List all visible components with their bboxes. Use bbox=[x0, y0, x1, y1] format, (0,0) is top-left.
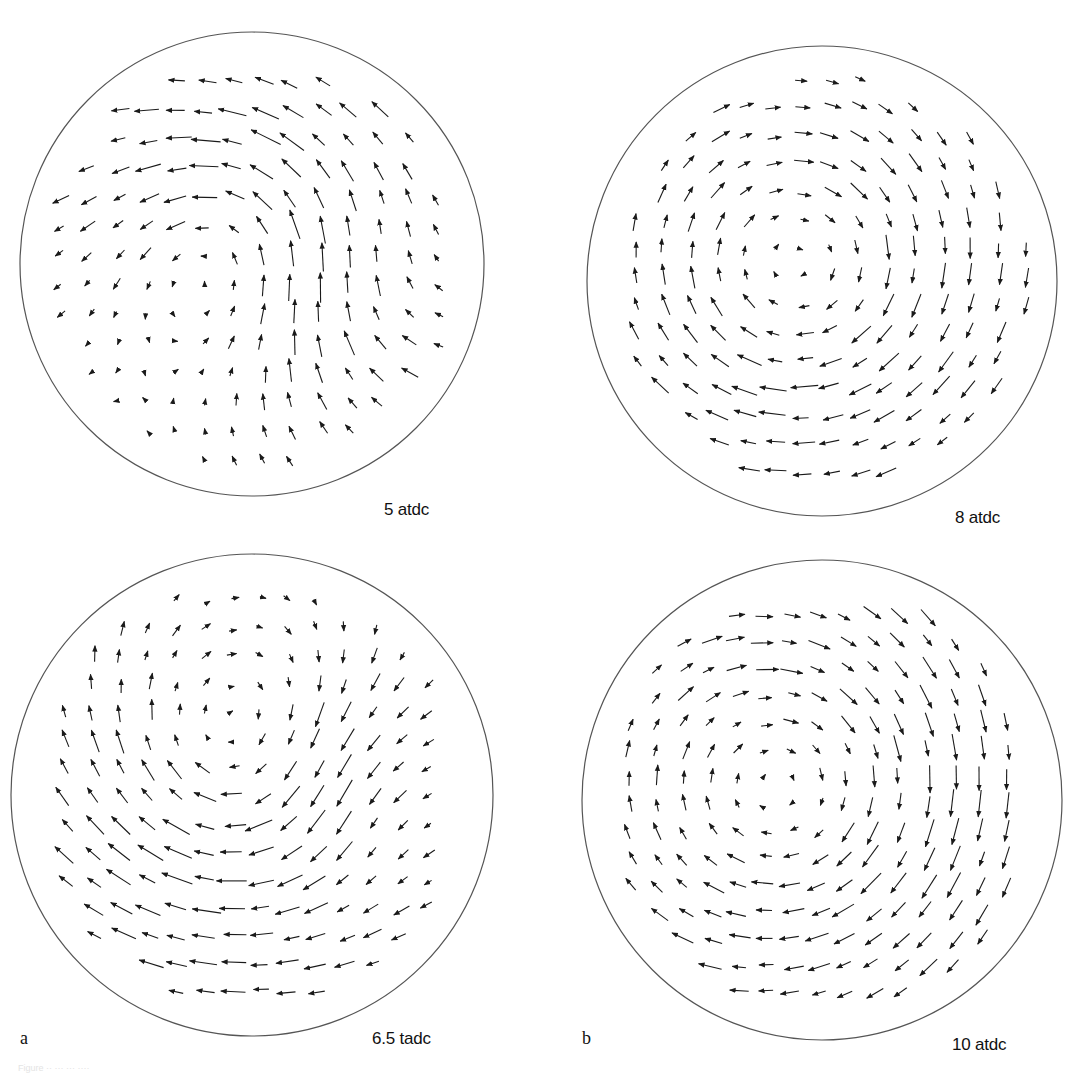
velocity-arrow-icon bbox=[796, 333, 814, 335]
velocity-arrow-icon bbox=[142, 760, 155, 781]
velocity-arrow-icon bbox=[785, 614, 801, 617]
velocity-arrow-icon bbox=[740, 103, 754, 107]
velocity-arrow-icon bbox=[249, 880, 274, 886]
velocity-arrow-icon bbox=[969, 263, 972, 285]
velocity-arrow-icon bbox=[230, 368, 233, 376]
velocity-arrow-icon bbox=[711, 297, 722, 316]
velocity-arrow-icon bbox=[664, 215, 667, 228]
velocity-arrow-icon bbox=[190, 961, 218, 965]
velocity-arrow-icon bbox=[167, 761, 181, 779]
velocity-arrow-icon bbox=[276, 960, 299, 963]
velocity-arrow-icon bbox=[1000, 263, 1003, 285]
velocity-arrow-icon bbox=[250, 165, 273, 179]
velocity-arrow-icon bbox=[751, 643, 773, 644]
velocity-arrow-icon bbox=[933, 376, 950, 395]
velocity-arrow-icon bbox=[951, 846, 961, 871]
velocity-arrow-icon bbox=[658, 184, 666, 202]
velocity-arrow-icon bbox=[347, 216, 350, 236]
velocity-arrow-icon bbox=[866, 688, 880, 704]
velocity-arrow-icon bbox=[684, 324, 698, 342]
velocity-arrow-icon bbox=[922, 875, 937, 898]
velocity-arrow-icon bbox=[139, 817, 155, 830]
velocity-arrow-icon bbox=[659, 356, 668, 366]
velocity-arrow-icon bbox=[282, 159, 301, 177]
velocity-arrow-icon bbox=[433, 224, 438, 234]
velocity-arrow-icon bbox=[1003, 847, 1010, 869]
velocity-arrow-icon bbox=[827, 300, 838, 309]
velocity-arrow-icon bbox=[939, 352, 954, 372]
velocity-arrow-icon bbox=[711, 768, 713, 782]
velocity-arrow-icon bbox=[112, 928, 136, 939]
velocity-arrow-icon bbox=[375, 335, 386, 349]
velocity-arrow-icon bbox=[245, 820, 272, 831]
velocity-arrow-icon bbox=[683, 771, 684, 784]
velocity-arrow-icon bbox=[688, 213, 694, 232]
velocity-arrow-icon bbox=[892, 902, 906, 917]
velocity-arrow-icon bbox=[711, 183, 725, 198]
velocity-arrow-icon bbox=[112, 817, 131, 835]
velocity-arrow-icon bbox=[837, 852, 852, 866]
velocity-arrow-icon bbox=[873, 766, 875, 788]
velocity-arrow-icon bbox=[813, 855, 829, 865]
velocity-arrow-icon bbox=[250, 933, 273, 935]
velocity-arrow-icon bbox=[634, 268, 636, 283]
velocity-arrow-icon bbox=[971, 185, 975, 198]
velocity-arrow-icon bbox=[940, 414, 950, 423]
velocity-arrow-icon bbox=[879, 104, 893, 114]
velocity-arrow-icon bbox=[819, 440, 839, 444]
velocity-arrow-icon bbox=[203, 678, 209, 686]
velocity-arrow-icon bbox=[977, 877, 986, 895]
velocity-arrow-icon bbox=[706, 410, 728, 420]
velocity-arrow-icon bbox=[629, 852, 636, 864]
velocity-arrow-icon bbox=[420, 902, 431, 908]
velocity-arrow-icon bbox=[906, 383, 922, 397]
velocity-arrow-icon bbox=[290, 654, 294, 662]
velocity-arrow-icon bbox=[760, 750, 768, 753]
velocity-arrow-icon bbox=[683, 156, 694, 168]
velocity-arrow-icon bbox=[964, 413, 973, 423]
velocity-arrow-icon bbox=[626, 878, 636, 890]
velocity-arrow-icon bbox=[348, 398, 357, 408]
velocity-arrow-icon bbox=[335, 961, 355, 967]
velocity-arrow-icon bbox=[318, 335, 322, 357]
velocity-arrow-icon bbox=[259, 734, 265, 745]
velocity-arrow-icon bbox=[745, 270, 748, 280]
velocity-arrow-icon bbox=[342, 680, 347, 694]
flow-panel-8-atdc bbox=[587, 46, 1057, 516]
velocity-arrow-icon bbox=[853, 358, 867, 367]
velocity-arrow-icon bbox=[263, 394, 265, 410]
velocity-arrow-icon bbox=[909, 324, 917, 337]
velocity-arrow-icon bbox=[732, 966, 746, 967]
velocity-arrow-icon bbox=[204, 705, 206, 714]
velocity-arrow-icon bbox=[838, 614, 850, 620]
velocity-arrow-icon bbox=[893, 934, 910, 949]
velocity-arrow-icon bbox=[927, 796, 930, 817]
cylinder-bore-outline bbox=[11, 554, 493, 1036]
velocity-arrow-icon bbox=[812, 991, 825, 995]
velocity-arrow-icon bbox=[226, 79, 243, 83]
velocity-arrow-icon bbox=[228, 336, 234, 349]
velocity-arrow-icon bbox=[54, 284, 61, 289]
velocity-arrow-icon bbox=[763, 774, 766, 778]
velocity-arrow-icon bbox=[139, 960, 164, 968]
velocity-arrow-icon bbox=[192, 935, 215, 939]
velocity-arrow-icon bbox=[221, 793, 242, 794]
velocity-arrow-icon bbox=[794, 160, 814, 162]
velocity-arrow-icon bbox=[945, 237, 946, 254]
velocity-arrow-icon bbox=[275, 907, 299, 914]
velocity-arrow-icon bbox=[194, 793, 216, 802]
velocity-arrow-icon bbox=[677, 854, 687, 865]
velocity-arrow-icon bbox=[118, 650, 120, 663]
velocity-arrow-icon bbox=[879, 131, 893, 143]
velocity-arrow-icon bbox=[909, 356, 922, 370]
velocity-arrow-icon bbox=[251, 906, 269, 909]
velocity-arrow-icon bbox=[145, 651, 148, 660]
velocity-arrow-icon bbox=[308, 810, 326, 833]
velocity-arrow-icon bbox=[726, 637, 744, 641]
velocity-arrow-icon bbox=[423, 850, 434, 858]
velocity-arrow-icon bbox=[369, 707, 377, 718]
velocity-arrow-icon bbox=[716, 213, 725, 230]
velocity-arrow-icon bbox=[89, 371, 93, 374]
velocity-arrow-icon bbox=[706, 718, 714, 726]
velocity-arrow-icon bbox=[147, 431, 150, 435]
